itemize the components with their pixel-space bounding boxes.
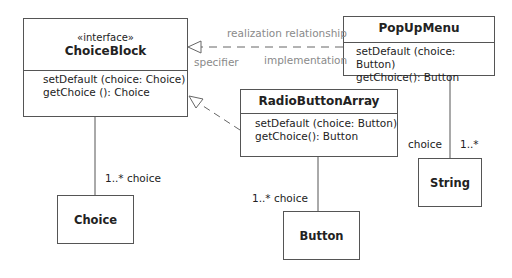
class-name: Button: [299, 229, 343, 243]
class-name: String: [430, 176, 470, 190]
radiobuttonarray-multiplicity-label: 1..* choice: [252, 192, 308, 204]
realization-relationship-label: realization relationship: [227, 27, 347, 39]
operations-compartment: setDefault (choice: Button) getChoice():…: [344, 42, 494, 76]
popupmenu-role-label: choice: [408, 138, 442, 150]
class-name: PopUpMenu: [344, 21, 494, 35]
operation: getChoice (): Choice: [43, 86, 187, 99]
class-string[interactable]: String: [418, 158, 482, 207]
operations-compartment: setDefault (choice: Choice) getChoice ()…: [24, 70, 187, 117]
realization-arrowhead-popupmenu: [188, 41, 201, 53]
class-name: RadioButtonArray: [241, 94, 397, 108]
class-popupmenu[interactable]: PopUpMenu setDefault (choice: Button) ge…: [343, 16, 495, 76]
operation: setDefault (choice: Choice): [43, 73, 187, 86]
specifier-label: specifier: [194, 56, 239, 68]
class-header: «interface» ChoiceBlock: [24, 19, 187, 70]
operation: getChoice(): Button: [356, 71, 494, 84]
class-header: RadioButtonArray: [241, 90, 397, 113]
class-choice[interactable]: Choice: [57, 195, 134, 244]
class-name: Choice: [74, 213, 117, 227]
realization-arrowhead-radiobuttonarray: [189, 96, 203, 108]
operation: setDefault (choice: Button): [356, 45, 494, 71]
class-radiobuttonarray[interactable]: RadioButtonArray setDefault (choice: But…: [240, 89, 398, 157]
class-button[interactable]: Button: [283, 211, 360, 260]
stereotype-label: «interface»: [24, 32, 187, 44]
choiceblock-multiplicity-label: 1..* choice: [105, 172, 161, 184]
popupmenu-multiplicity-label: 1..*: [460, 138, 479, 150]
operations-compartment: setDefault (choice: Button) getChoice():…: [241, 113, 397, 157]
class-header: PopUpMenu: [344, 17, 494, 42]
operation: setDefault (choice: Button): [255, 117, 397, 130]
class-name: ChoiceBlock: [24, 44, 187, 58]
operation: getChoice(): Button: [255, 130, 397, 143]
implementation-label: implementation: [264, 54, 347, 66]
class-choiceblock[interactable]: «interface» ChoiceBlock setDefault (choi…: [23, 18, 188, 117]
realization-line-radiobuttonarray: [200, 104, 240, 130]
